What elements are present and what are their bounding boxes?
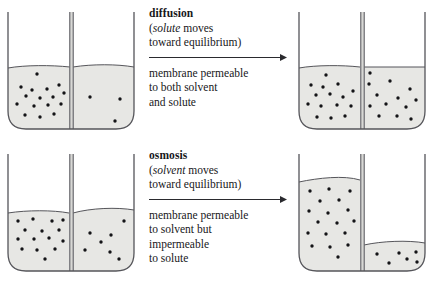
osmosis-note-line-2: to solvent but <box>149 222 295 237</box>
osmosis-note-line-3: impermeable <box>149 237 295 252</box>
osmosis-row: osmosis (solvent moves toward equilibriu… <box>0 142 439 283</box>
osmosis-diffusion-figure: diffusion (solute moves toward equilibri… <box>0 0 439 283</box>
diffusion-subtitle-line-2: toward equilibrium) <box>149 35 295 50</box>
osmosis-subtitle-line-1: (solvent moves <box>149 163 295 178</box>
osmosis-caption: osmosis (solvent moves toward equilibriu… <box>149 148 295 266</box>
diffusion-row: diffusion (solute moves toward equilibri… <box>0 0 439 141</box>
diffusion-note-line-2: to both solvent <box>149 80 295 95</box>
diffusion-note-line-3: and solute <box>149 95 295 110</box>
diffusion-emphasis: solute <box>153 22 180 34</box>
osmosis-arrow <box>149 193 288 206</box>
osmosis-note: membrane permeable to solvent but imperm… <box>149 208 295 266</box>
diffusion-note: membrane permeable to both solvent and s… <box>149 66 295 110</box>
osmosis-emphasis: solvent <box>153 164 186 176</box>
diffusion-subtitle-line-1: (solute moves <box>149 21 295 36</box>
before-osmosis-beaker <box>7 153 135 272</box>
osmosis-subtitle-line-2: toward equilibrium) <box>149 177 295 192</box>
diffusion-arrow <box>149 51 288 64</box>
after-diffusion-beaker <box>298 11 426 130</box>
diffusion-caption: diffusion (solute moves toward equilibri… <box>149 6 295 109</box>
before-diffusion-beaker <box>7 11 135 130</box>
after-osmosis-beaker <box>298 153 426 272</box>
osmosis-note-line-1: membrane permeable <box>149 208 295 223</box>
osmosis-title: osmosis <box>149 148 295 163</box>
diffusion-title: diffusion <box>149 6 295 21</box>
osmosis-note-line-4: to solute <box>149 251 295 266</box>
diffusion-note-line-1: membrane permeable <box>149 66 295 81</box>
